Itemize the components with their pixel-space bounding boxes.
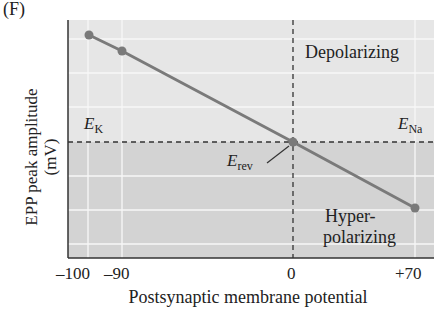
x-tick-0: 0 <box>287 264 296 284</box>
x-tick-m100: –100 <box>56 264 90 284</box>
ek-label: EK <box>84 114 103 137</box>
ena-label: ENa <box>398 114 422 137</box>
x-tick-m90: –90 <box>104 264 130 284</box>
depolarizing-label: Depolarizing <box>305 42 399 63</box>
x-tick-p70: +70 <box>395 264 422 284</box>
erev-label: Erev <box>227 151 253 174</box>
hyperpolarizing-label: Hyper- polarizing <box>325 206 396 248</box>
x-axis-label: Postsynaptic membrane potential <box>88 287 408 308</box>
depolarizing-region <box>68 20 434 142</box>
